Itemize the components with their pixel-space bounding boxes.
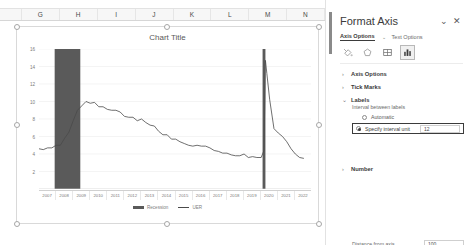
resize-handle-top-left[interactable]: [14, 24, 20, 30]
column-header[interactable]: [0, 9, 22, 20]
x-tick-label: 2008: [56, 191, 73, 200]
chart-plot-svg: [39, 49, 311, 189]
x-tick-label: 2011: [107, 191, 124, 200]
specify-interval-radio-button[interactable]: [356, 126, 361, 131]
section-tick-marks[interactable]: › Tick Marks: [342, 81, 463, 92]
x-tick-label: 2017: [210, 191, 227, 200]
x-tick-label: 2019: [244, 191, 261, 200]
plot-area[interactable]: [39, 49, 311, 189]
chevron-right-icon: ›: [342, 166, 347, 172]
section-label-labels: Labels: [351, 97, 369, 103]
y-axis-tick-labels[interactable]: 246810121416: [17, 49, 38, 189]
distance-from-axis-label: Distance from axis: [352, 241, 395, 245]
axis-options-chart-icon[interactable]: [400, 45, 415, 60]
chevron-down-icon: ⌄: [342, 97, 347, 103]
legend-swatch-recession: [133, 206, 144, 210]
interval-unit-input[interactable]: 12: [420, 125, 460, 133]
y-tick-label: 10: [30, 99, 35, 104]
specify-interval-unit-row[interactable]: Specify interval unit 12: [352, 123, 464, 134]
excel-chart-format-axis-screen: G H I J K L M N Chart Title 246810121416…: [0, 0, 469, 245]
chart-object[interactable]: Chart Title 246810121416 200720082009201…: [16, 26, 319, 224]
chevron-right-icon: ›: [342, 84, 347, 90]
tab-text-options[interactable]: Text Options: [392, 34, 423, 40]
x-tick-label: 2021: [278, 191, 295, 200]
automatic-radio-button[interactable]: [362, 115, 367, 120]
distance-from-axis-row: Distance from axis 100: [352, 239, 464, 245]
task-pane-header: Format Axis ⌄ ✕: [340, 12, 463, 30]
pane-divider: [340, 63, 463, 64]
tab-caret-icon[interactable]: ⌄: [382, 34, 386, 40]
size-properties-icon[interactable]: [380, 45, 395, 60]
tab-axis-options[interactable]: Axis Options: [340, 33, 375, 41]
x-tick-label: 2010: [90, 191, 107, 200]
chart-legend[interactable]: Recession UER: [17, 205, 318, 210]
format-icon-row: [340, 44, 463, 61]
task-pane-tabs: Axis Options ⌄ Text Options: [340, 31, 463, 43]
legend-swatch-uer: [178, 207, 189, 208]
y-tick-label: 4: [32, 152, 35, 157]
automatic-radio-label: Automatic: [371, 114, 394, 120]
resize-handle-bottom-left[interactable]: [14, 221, 20, 227]
automatic-radio-row[interactable]: Automatic: [362, 114, 394, 120]
legend-item-uer[interactable]: UER: [178, 205, 202, 210]
format-axis-task-pane: Format Axis ⌄ ✕ Axis Options ⌄ Text Opti…: [325, 0, 469, 245]
column-header-n[interactable]: N: [287, 9, 325, 20]
section-label-tick-marks: Tick Marks: [351, 84, 381, 90]
effects-icon[interactable]: [360, 45, 375, 60]
x-tick-label: 2012: [124, 191, 141, 200]
y-tick-label: 14: [30, 64, 35, 69]
column-header-l[interactable]: L: [211, 9, 249, 20]
x-tick-label: 2014: [158, 191, 175, 200]
resize-handle-top-right[interactable]: [316, 24, 322, 30]
x-axis-tick-labels[interactable]: 2007200820092010201120122013201420152016…: [39, 190, 311, 200]
resize-handle-top-center[interactable]: [164, 24, 170, 30]
resize-handle-bottom-center[interactable]: [164, 221, 170, 227]
column-header-g[interactable]: G: [22, 9, 60, 20]
legend-item-recession[interactable]: Recession: [133, 205, 168, 210]
column-header-m[interactable]: M: [249, 9, 287, 20]
distance-from-axis-input[interactable]: 100: [424, 240, 464, 245]
y-tick-label: 16: [30, 47, 35, 52]
chevron-down-icon[interactable]: ⌄: [437, 15, 450, 28]
column-header-j[interactable]: J: [136, 9, 174, 20]
column-header-h[interactable]: H: [60, 9, 98, 20]
y-tick-label: 6: [32, 134, 35, 139]
legend-label-recession: Recession: [147, 205, 168, 210]
x-tick-label: 2009: [73, 191, 90, 200]
specify-interval-label: Specify interval unit: [365, 126, 410, 132]
chart-title[interactable]: Chart Title: [17, 33, 318, 42]
y-tick-label: 2: [32, 169, 35, 174]
chevron-right-icon: ›: [342, 71, 347, 77]
x-tick-label: 2015: [176, 191, 193, 200]
spreadsheet-column-headers: G H I J K L M N: [0, 8, 325, 21]
column-header-i[interactable]: I: [98, 9, 136, 20]
fill-line-icon[interactable]: [340, 45, 355, 60]
section-axis-options[interactable]: › Axis Options: [342, 68, 463, 79]
resize-handle-bottom-right[interactable]: [316, 221, 322, 227]
x-tick-label: 2020: [261, 191, 278, 200]
column-header-k[interactable]: K: [174, 9, 212, 20]
x-tick-label: 2016: [193, 191, 210, 200]
x-tick-label: 2007: [39, 191, 56, 200]
section-label-number: Number: [351, 166, 373, 172]
task-pane-title: Format Axis: [340, 15, 398, 27]
section-label-axis-options: Axis Options: [351, 71, 387, 77]
close-icon[interactable]: ✕: [450, 15, 463, 28]
pane-drag-handle[interactable]: [329, 12, 332, 54]
resize-handle-middle-right[interactable]: [316, 122, 322, 128]
section-number[interactable]: › Number: [342, 163, 463, 174]
x-tick-label: 2022: [295, 191, 311, 200]
y-tick-label: 12: [30, 82, 35, 87]
x-tick-label: 2018: [227, 191, 244, 200]
x-tick-label: 2013: [141, 191, 158, 200]
legend-label-uer: UER: [192, 205, 202, 210]
resize-handle-middle-left[interactable]: [14, 122, 20, 128]
interval-between-labels-title: Interval between labels: [352, 104, 405, 110]
y-tick-label: 8: [32, 117, 35, 122]
